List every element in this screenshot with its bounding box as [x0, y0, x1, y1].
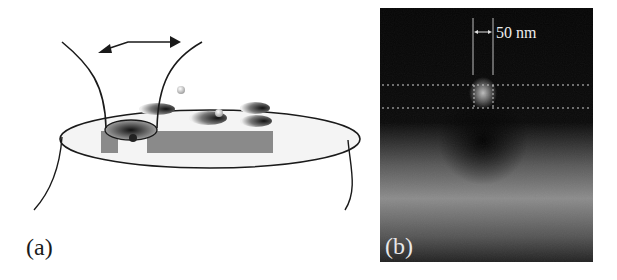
panel-b: 50 nm (b) [380, 8, 593, 262]
particle [177, 86, 185, 94]
particle [215, 109, 223, 117]
scan-arrow-icon [98, 36, 181, 53]
probe-left-wall [62, 42, 106, 128]
figure: (a) 50 nm (b) [0, 0, 617, 280]
probe-tip-point [129, 134, 137, 142]
hole [240, 102, 270, 114]
waveguide-bar [147, 131, 273, 153]
panel-a-label: (a) [26, 234, 53, 260]
hole [139, 103, 175, 115]
panel-b-label: (b) [385, 233, 413, 259]
panel-a: (a) [26, 36, 360, 260]
scale-bar-label: 50 nm [496, 24, 537, 41]
support-left-line [34, 137, 62, 210]
hole [240, 115, 272, 127]
